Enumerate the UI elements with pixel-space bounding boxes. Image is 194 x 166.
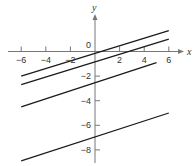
x-axis-arrow-icon: [178, 49, 184, 54]
x-tick-label: −4: [41, 55, 51, 65]
y-tick-label: −8: [81, 145, 91, 155]
x-axis-label: x: [186, 46, 192, 57]
x-tick-label: 4: [142, 55, 147, 65]
x-tick-label: 6: [166, 55, 171, 65]
chart-plot: −6−4−2246−2−4−6−80xy: [0, 0, 194, 166]
y-axis-label: y: [91, 2, 97, 13]
origin-label: 0: [86, 40, 91, 50]
x-tick-label: −2: [65, 55, 75, 65]
x-tick-label: −6: [16, 55, 26, 65]
x-tick-label: 2: [117, 55, 122, 65]
axes: [8, 14, 184, 163]
y-axis-arrow-icon: [93, 14, 98, 20]
y-tick-label: −4: [81, 96, 91, 106]
y-tick-label: −6: [81, 120, 91, 130]
y-tick-label: −2: [81, 71, 91, 81]
